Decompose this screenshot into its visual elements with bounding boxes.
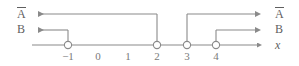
left-label-b: B — [17, 23, 25, 35]
tick-label-0: 0 — [88, 51, 108, 62]
tick-label-4: 4 — [206, 51, 226, 62]
overline-a-left: A — [17, 7, 26, 20]
left-label-a-complement: A — [17, 7, 26, 20]
right-label-b: B — [275, 23, 283, 35]
right-label-a-complement: A — [275, 7, 284, 20]
tick-label-minus-1: −1 — [58, 51, 78, 62]
axis-variable-label: x — [275, 39, 280, 51]
tick-label-2: 2 — [147, 51, 167, 62]
b-left-ray — [38, 30, 68, 45]
tick-label-1: 1 — [118, 51, 138, 62]
overline-a-right: A — [275, 7, 284, 20]
number-line-diagram: A B A B x −1 0 1 2 3 4 — [0, 0, 299, 66]
tick-label-3: 3 — [177, 51, 197, 62]
b-right-ray — [216, 30, 256, 45]
